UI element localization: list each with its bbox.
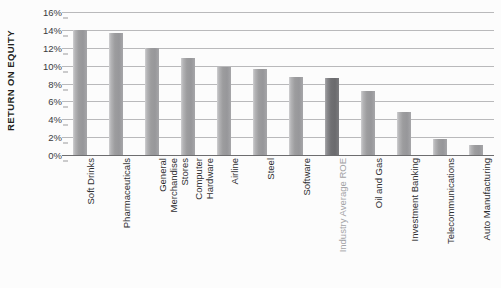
- bar[interactable]: [145, 48, 159, 155]
- x-axis-category-label: Telecommunications: [445, 158, 456, 286]
- bar[interactable]: [109, 33, 123, 155]
- x-axis-category-label: Airline: [229, 158, 240, 286]
- bar[interactable]: [325, 78, 339, 155]
- axis-baseline: [62, 155, 494, 156]
- y-axis-title: RETURN ON EQUITY: [0, 0, 20, 160]
- x-axis-category-label: Industry Average ROE: [337, 158, 348, 286]
- gridline: [62, 119, 494, 120]
- x-axis-category-label: Software: [301, 158, 312, 286]
- y-axis-tick-label: 4%: [28, 114, 62, 125]
- x-axis-category-label: Investment Banking: [409, 158, 420, 286]
- x-axis-category-label: Oil and Gas: [373, 158, 384, 286]
- bar[interactable]: [397, 112, 411, 155]
- y-axis-tick-label: 14%: [28, 24, 62, 35]
- plot-area: [62, 12, 494, 155]
- x-axis-category-label: Computer Hardware: [193, 158, 215, 286]
- y-axis-tick-label: 0%: [28, 150, 62, 161]
- bar[interactable]: [289, 77, 303, 155]
- y-axis-title-label: RETURN ON EQUITY: [5, 30, 16, 131]
- bar[interactable]: [181, 58, 195, 155]
- gridline: [62, 137, 494, 138]
- y-axis-tick-labels: 16%14%12%10%8%6%4%2%0%: [20, 12, 62, 155]
- chart-container: RETURN ON EQUITY 16%14%12%10%8%6%4%2%0% …: [0, 0, 501, 288]
- x-axis-category-label: Steel: [265, 158, 276, 286]
- gridline: [62, 66, 494, 67]
- y-axis-tick-label: 2%: [28, 132, 62, 143]
- bar[interactable]: [253, 69, 267, 155]
- x-axis-category-label: Soft Drinks: [85, 158, 96, 286]
- gridline: [62, 48, 494, 49]
- gridline: [62, 30, 494, 31]
- gridline: [62, 84, 494, 85]
- gridline: [62, 12, 494, 13]
- bar[interactable]: [217, 67, 231, 155]
- x-axis-category-label: Auto Manufacturing: [481, 158, 492, 286]
- gridline: [62, 101, 494, 102]
- x-axis-category-labels: Soft DrinksPharmaceuticalsGeneral Mercha…: [62, 158, 494, 286]
- x-axis-category-label: General Merchandise Stores: [157, 158, 190, 286]
- bar[interactable]: [469, 145, 483, 155]
- y-axis-tick-label: 6%: [28, 96, 62, 107]
- bar[interactable]: [361, 91, 375, 155]
- y-axis-tick-label: 8%: [28, 78, 62, 89]
- x-axis-category-label: Pharmaceuticals: [121, 158, 132, 286]
- y-axis-tick-label: 10%: [28, 60, 62, 71]
- bar[interactable]: [73, 30, 87, 155]
- y-axis-tick-label: 16%: [28, 7, 62, 18]
- y-axis-tick-label: 12%: [28, 42, 62, 53]
- bar[interactable]: [433, 139, 447, 155]
